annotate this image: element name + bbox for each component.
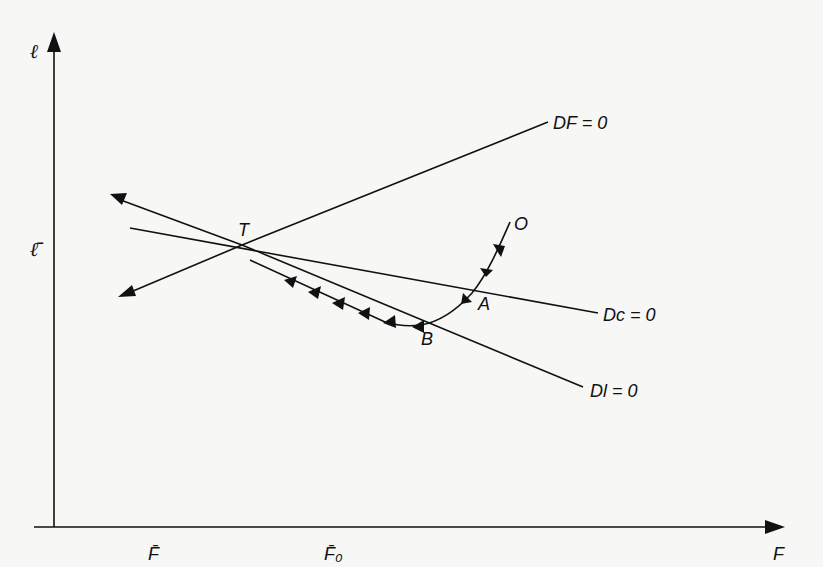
trajectory-path (250, 222, 510, 333)
dl-zero-label: Dl = 0 (590, 381, 638, 401)
point-b-label: B (421, 329, 433, 349)
y-tick-lbar: ℓ̄ (30, 238, 44, 260)
point-a-label: A (477, 294, 490, 314)
arrow-icon (110, 193, 127, 205)
x-tick-fbar0: F̄₀ (324, 544, 343, 564)
dl-zero-line (110, 193, 583, 387)
arrow-icon (358, 307, 370, 320)
dc-zero-line (130, 228, 598, 313)
y-axis-label: ℓ (30, 40, 39, 62)
x-tick-fbar: F̄ (148, 544, 160, 564)
arrow-icon (480, 268, 493, 277)
y-axis-arrow-icon (47, 32, 61, 52)
x-axis-label: F (773, 544, 785, 564)
phase-diagram: ℓ ℓ̄ F̄ F̄₀ F DF = 0 Dl = 0 Dc = 0 T O A… (0, 0, 823, 567)
df-zero-label: DF = 0 (553, 113, 607, 133)
point-o-label: O (514, 214, 528, 234)
y-axis (47, 32, 61, 527)
point-t-label: T (238, 220, 251, 240)
x-axis-arrow-icon (765, 520, 785, 534)
arrow-icon (118, 285, 136, 297)
x-axis (34, 520, 785, 534)
dc-zero-label: Dc = 0 (603, 305, 656, 325)
